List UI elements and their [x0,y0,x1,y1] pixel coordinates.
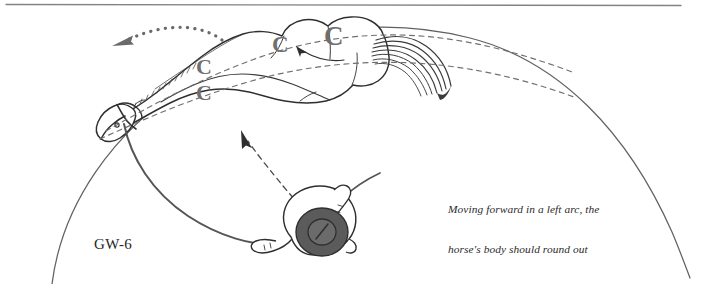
c-marker-4: C [324,23,344,50]
c-marker-3: C [272,33,289,56]
caption-line-1: Moving forward in a left arc, the [448,203,606,216]
c-marker-2: C [196,82,212,104]
c-marker-1: C [196,56,212,78]
page-top-rule [6,5,681,6]
direction-of-travel-arrow [112,27,222,46]
figure-canvas: C C C C GW-6 Moving forward in a left ar… [0,0,701,284]
handler-focus-arrow [241,130,300,205]
caption-line-2: horse's body should round out [448,243,606,256]
handler-overhead [251,185,356,256]
handler-hat [296,208,348,256]
caption-text: Moving forward in a left arc, the horse'… [448,176,606,284]
plate-label: GW-6 [94,236,132,253]
